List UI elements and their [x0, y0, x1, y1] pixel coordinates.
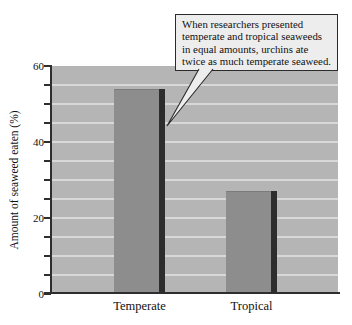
gridline [50, 217, 338, 219]
y-axis-tick [44, 198, 51, 200]
annotation-line: twice as much temperate seaweed. [182, 55, 332, 67]
y-axis-tick [44, 217, 51, 219]
y-axis-tick [44, 65, 51, 67]
gridline [50, 198, 338, 200]
y-tick-label: 60 [14, 60, 44, 72]
gridline [50, 160, 338, 162]
x-axis-line [44, 292, 340, 294]
y-axis-tick [44, 293, 51, 295]
gridline [50, 255, 338, 257]
y-axis-tick [44, 179, 51, 181]
y-axis-tick [44, 84, 51, 86]
bar-fill [114, 89, 159, 294]
y-tick-label: 0 [14, 288, 44, 300]
y-axis-tick [44, 255, 51, 257]
annotation-line: in equal amounts, urchins ate [182, 43, 332, 55]
bar-tropical [226, 191, 277, 294]
y-axis-title: Amount of seaweed eaten (%) [8, 110, 20, 249]
gridline [50, 274, 338, 276]
y-axis-tick [44, 122, 51, 124]
y-axis-tick [44, 103, 51, 105]
y-tick-label: 40 [14, 136, 44, 148]
gridline [50, 141, 338, 143]
seaweed-bar-chart-figure: Amount of seaweed eaten (%) When researc… [0, 0, 352, 325]
bar-shadow [271, 191, 277, 294]
callout-pointer [160, 69, 222, 129]
y-axis-tick [44, 236, 51, 238]
x-category-label: Temperate [95, 299, 185, 314]
y-axis-tick [44, 160, 51, 162]
y-tick-label: 20 [14, 212, 44, 224]
annotation-line: temperate and tropical seaweeds [182, 30, 332, 42]
bar-fill [226, 191, 271, 294]
bar-temperate [114, 89, 165, 294]
gridline [50, 179, 338, 181]
y-axis-tick [44, 274, 51, 276]
y-axis-tick [44, 141, 51, 143]
x-category-label: Tropical [207, 299, 297, 314]
annotation-line: When researchers presented [182, 18, 332, 30]
gridline [50, 236, 338, 238]
annotation-callout: When researchers presentedtemperate and … [175, 14, 338, 71]
